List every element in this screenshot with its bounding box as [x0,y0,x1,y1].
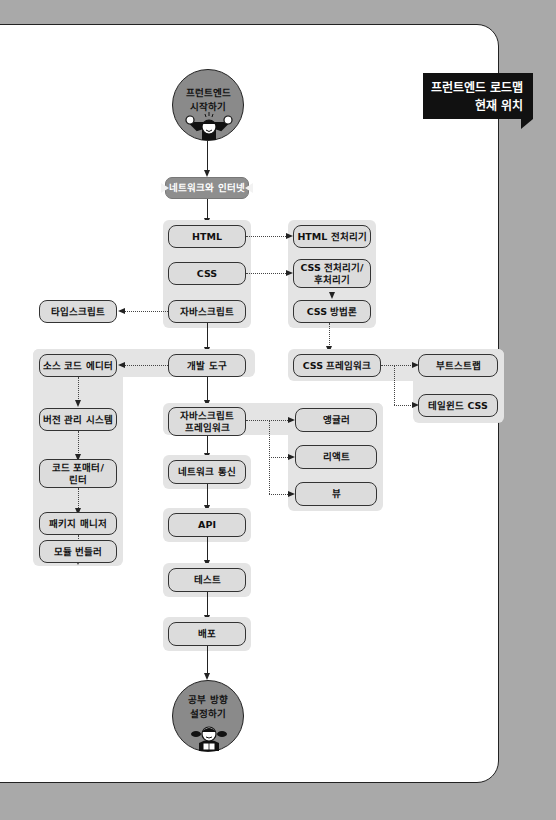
node-api[interactable]: API [168,513,246,537]
arrow-marker-icon [161,183,169,193]
connector [207,323,208,349]
optional-connector [246,420,288,421]
node-html[interactable]: HTML [168,225,246,248]
node-module-bundler-label: 모듈 번들러 [54,546,102,558]
node-test-label: 테스트 [194,574,221,586]
node-css-framework[interactable]: CSS 프레임워크 [293,354,381,377]
node-css-methodology-label: CSS 방법론 [307,306,358,318]
node-tailwind-label: 테일윈드 CSS [428,400,488,412]
node-css[interactable]: CSS [168,262,246,285]
optional-connector [381,365,413,366]
node-react[interactable]: 리액트 [295,445,377,469]
node-source-editor-label: 소스 코드 에디터 [43,360,113,372]
end-label-1: 공부 방향 [173,693,243,707]
optional-connector [394,365,395,405]
optional-connector [124,311,168,312]
node-formatter-label-2: 린터 [69,474,87,485]
node-css-preprocessor-label-2: 후처리기 [314,274,350,285]
arrow-left-icon [118,308,125,314]
node-react-label: 리액트 [323,451,350,463]
arrow-right-icon [288,454,295,460]
arrow-right-icon [286,233,293,239]
node-api-label: API [198,519,216,531]
arrow-marker-icon [245,183,253,193]
node-tailwind[interactable]: 테일윈드 CSS [418,394,498,417]
connector [207,484,208,506]
connector [207,646,208,674]
banner-title: 프런트엔드 로드맵 [423,79,523,97]
optional-connector [78,377,79,401]
node-dev-tools-label: 개발 도구 [187,360,226,372]
optional-connector [246,236,286,237]
node-js-framework-label-1: 자바스크립트 [180,410,234,421]
optional-connector [269,494,288,495]
node-javascript-label: 자바스크립트 [180,306,234,318]
cheering-person-icon [185,112,233,140]
end-node: 공부 방향 설정하기 [172,680,244,752]
start-node: 프런트엔드 시작하기 [172,69,244,141]
start-label-1: 프런트엔드 [173,86,243,100]
arrow-right-icon [286,270,293,276]
optional-connector [78,431,79,455]
node-formatter[interactable]: 코드 포매터/린터 [39,459,117,488]
arrow-down-icon [204,170,210,177]
node-module-bundler[interactable]: 모듈 번들러 [39,540,117,563]
node-package-manager-label: 패키지 매니저 [49,518,106,530]
reading-person-icon [191,723,227,751]
node-css-framework-label: CSS 프레임워크 [303,360,372,372]
connector [207,592,208,616]
node-formatter-label-1: 코드 포매터/ [52,462,104,473]
end-label-2: 설정하기 [173,707,243,721]
node-js-framework[interactable]: 자바스크립트프레임워크 [168,407,246,436]
node-vue[interactable]: 뷰 [295,482,377,506]
connector [207,141,208,171]
connector [207,199,208,219]
optional-connector [246,273,286,274]
arrow-right-icon [288,491,295,497]
current-position-banner: 프런트엔드 로드맵 현재 위치 [423,73,533,119]
node-bootstrap[interactable]: 부트스트랩 [418,354,498,377]
node-html-preprocessor-label: HTML 전처리기 [297,231,366,243]
optional-connector [124,365,168,366]
arrow-left-icon [118,362,125,368]
node-deploy-label: 배포 [198,628,216,640]
node-typescript[interactable]: 타입스크립트 [39,300,117,323]
node-vcs-label: 버전 관리 시스템 [43,414,113,426]
node-angular[interactable]: 앵귤러 [295,408,377,432]
node-vue-label: 뷰 [332,488,341,500]
node-test[interactable]: 테스트 [168,568,246,592]
node-typescript-label: 타입스크립트 [51,306,105,318]
node-css-methodology[interactable]: CSS 방법론 [293,300,371,323]
node-network-comm-label: 네트워크 통신 [178,466,235,478]
connector [207,537,208,561]
node-vcs[interactable]: 버전 관리 시스템 [39,408,117,431]
node-dev-tools[interactable]: 개발 도구 [168,354,246,377]
arrow-right-icon [288,417,295,423]
node-javascript[interactable]: 자바스크립트 [168,300,246,323]
optional-connector [329,323,330,347]
node-bootstrap-label: 부트스트랩 [436,360,481,372]
arrow-down-icon [204,673,210,680]
banner-fold [521,119,533,129]
node-package-manager[interactable]: 패키지 매니저 [39,512,117,535]
node-css-preprocessor-label-1: CSS 전처리기/ [300,262,363,273]
optional-connector [394,405,413,406]
node-network-comm[interactable]: 네트워크 통신 [168,460,246,484]
arrow-down-icon [329,292,335,299]
connector [207,377,208,401]
node-css-label: CSS [197,268,217,280]
node-html-label: HTML [192,231,222,243]
banner-subtitle: 현재 위치 [423,97,523,115]
node-deploy[interactable]: 배포 [168,622,246,646]
node-js-framework-label-2: 프레임워크 [185,422,230,433]
node-source-editor[interactable]: 소스 코드 에디터 [39,354,117,377]
arrow-down-icon [75,400,81,407]
node-network[interactable]: 네트워크와 인터넷 [165,177,249,199]
node-network-label: 네트워크와 인터넷 [169,182,244,194]
node-html-preprocessor[interactable]: HTML 전처리기 [293,225,371,248]
node-css-preprocessor[interactable]: CSS 전처리기/후처리기 [293,259,371,288]
optional-connector [269,457,288,458]
node-angular-label: 앵귤러 [323,414,350,426]
